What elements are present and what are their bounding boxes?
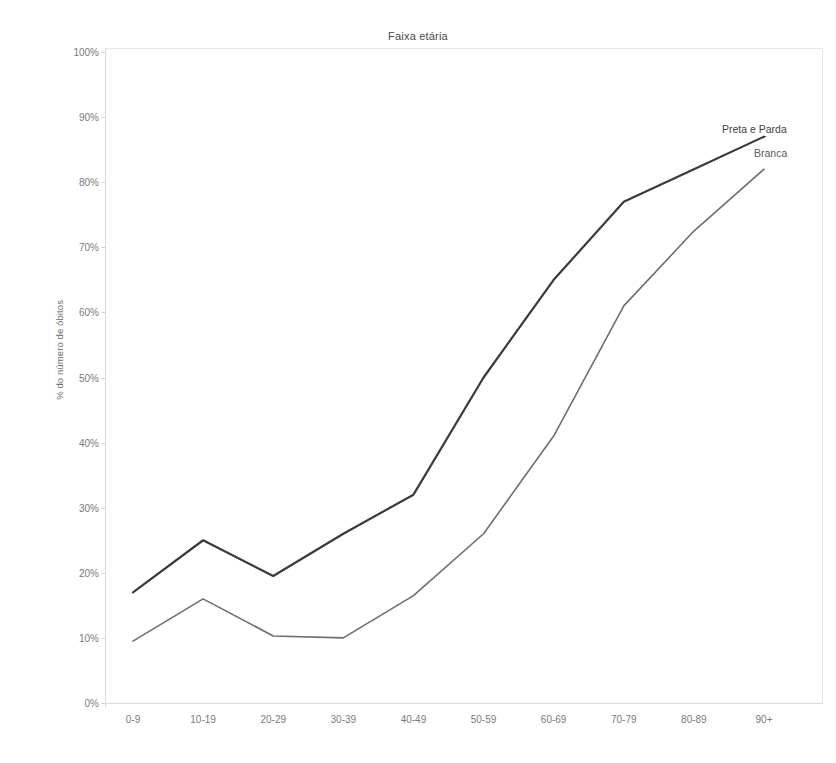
series-lines — [0, 0, 836, 763]
series-line-preta-e-parda — [133, 137, 764, 593]
series-label-preta-e-parda: Preta e Parda — [722, 123, 787, 135]
series-line-branca — [133, 169, 764, 641]
series-label-branca: Branca — [754, 147, 787, 159]
chart-container: Faixa etária % do número de óbitos 100%9… — [0, 0, 836, 763]
